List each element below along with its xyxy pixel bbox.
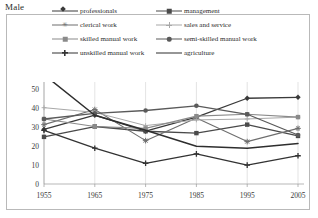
datapoint-skilled-manual-work-1985 [194, 114, 198, 118]
datapoint-sales-and-service-1955 [42, 105, 47, 110]
x-tick-label: 1985 [189, 191, 204, 200]
x-tick-label: 1995 [240, 191, 255, 200]
x-tick-label: 1955 [37, 191, 52, 200]
series-line-skilled-manual-work [44, 114, 298, 128]
series-line-sales-and-service [44, 108, 298, 126]
y-tick-label: 40 [32, 104, 40, 113]
y-tick-label: 30 [32, 123, 40, 132]
datapoint-unskilled-manual-work-2005 [295, 153, 301, 159]
marker-diamond-icon [63, 9, 67, 13]
datapoint-semi-skilled-manual-work-2005 [296, 133, 301, 138]
datapoint-skilled-manual-work-1965 [93, 124, 97, 128]
y-tick-label: 10 [32, 161, 40, 170]
datapoint-unskilled-manual-work-1995 [244, 162, 250, 168]
chart-screenshot: Male professionalsmanagement✳clerical wo… [0, 0, 318, 218]
datapoint-semi-skilled-manual-work-1995 [245, 112, 250, 117]
line-chart-svg: 01020304050195519651975198519952005 [6, 14, 310, 210]
marker-square-icon [167, 9, 172, 14]
datapoint-management-1985 [194, 131, 198, 135]
x-tick-label: 2005 [291, 191, 306, 200]
y-tick-label: 0 [35, 180, 39, 189]
series-line-management [44, 125, 298, 137]
y-tick-label: 20 [32, 142, 40, 151]
datapoint-clerical-work-2005 [295, 126, 301, 132]
page-title: Male [5, 2, 24, 13]
x-tick-label: 1965 [87, 191, 102, 200]
datapoint-management-1995 [245, 122, 249, 126]
datapoint-semi-skilled-manual-work-1975 [143, 108, 148, 113]
datapoint-semi-skilled-manual-work-1955 [42, 117, 47, 122]
series-group [41, 75, 301, 168]
datapoint-unskilled-manual-work-1965 [92, 145, 98, 151]
datapoint-professionals-2005 [295, 95, 300, 100]
datapoint-unskilled-manual-work-1975 [143, 160, 149, 166]
x-tick-label: 1975 [138, 191, 153, 200]
series-line-semi-skilled-manual-work [44, 106, 298, 135]
datapoint-unskilled-manual-work-1985 [194, 151, 200, 157]
datapoint-sales-and-service-1995 [245, 117, 250, 122]
y-tick-label: 50 [32, 85, 40, 94]
datapoint-professionals-1995 [245, 96, 250, 101]
datapoint-skilled-manual-work-2005 [296, 115, 300, 119]
datapoint-clerical-work-1975 [143, 138, 149, 144]
datapoint-clerical-work-1955 [41, 122, 47, 128]
datapoint-clerical-work-1995 [244, 139, 250, 145]
datapoint-semi-skilled-manual-work-1985 [194, 103, 199, 108]
plot-area: 01020304050195519651975198519952005 [6, 14, 310, 210]
datapoint-management-1955 [42, 135, 46, 139]
